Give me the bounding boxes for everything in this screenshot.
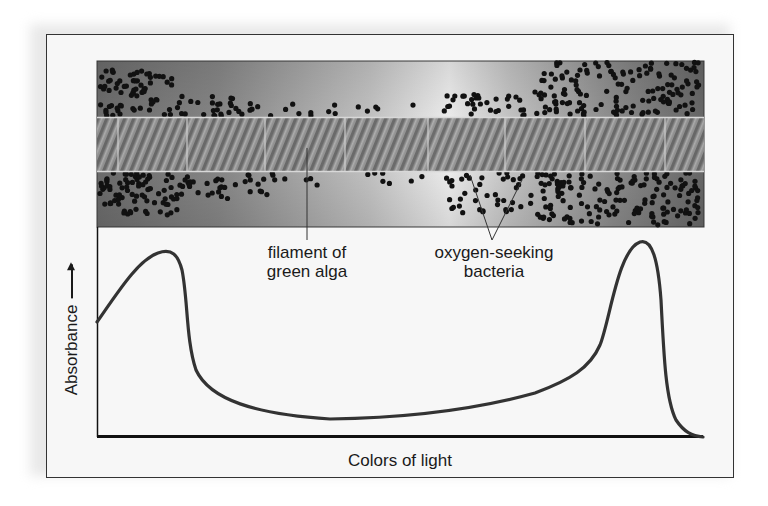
absorption-curve — [97, 242, 703, 437]
x-axis-label: Colors of light — [300, 451, 500, 470]
filament-label: filament of green alga — [248, 243, 366, 281]
bacteria-label-line1: oxygen-seeking — [414, 243, 574, 262]
y-axis-label: Absorbance — [62, 265, 82, 396]
bacteria-label-line2: bacteria — [414, 262, 574, 281]
filament-label-line2: green alga — [248, 262, 366, 281]
arrow-up-icon — [71, 265, 73, 299]
y-axis-label-text: Absorbance — [62, 305, 82, 396]
green-alga-filament — [97, 117, 704, 172]
filament-label-line1: filament of — [248, 243, 366, 262]
bacteria-label: oxygen-seeking bacteria — [414, 243, 574, 281]
figure-canvas — [0, 0, 768, 506]
